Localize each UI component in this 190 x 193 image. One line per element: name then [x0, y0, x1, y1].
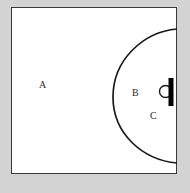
outer-rectangle-boundary	[11, 7, 177, 174]
region-label-c: C	[150, 111, 157, 121]
region-label-a: A	[39, 80, 46, 90]
figure-container: A B C	[0, 0, 190, 193]
region-label-b: B	[132, 88, 139, 98]
